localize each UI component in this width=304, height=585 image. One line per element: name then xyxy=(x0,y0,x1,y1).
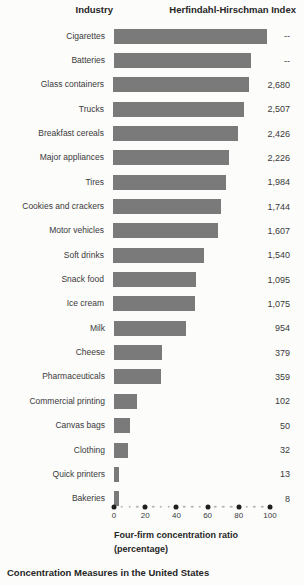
bar-track xyxy=(113,296,267,311)
hhi-value: 102 xyxy=(270,396,304,406)
hhi-value: 2,226 xyxy=(267,153,304,163)
industry-label: Glass containers xyxy=(0,80,113,89)
cr4-bar xyxy=(114,418,130,433)
cr4-bar xyxy=(113,272,196,287)
cr4-bar xyxy=(114,467,119,482)
hhi-value: 1,540 xyxy=(267,250,304,260)
bar-track xyxy=(114,467,270,482)
industry-label: Motor vehicles xyxy=(0,226,113,235)
hhi-value: 8 xyxy=(270,494,304,504)
bar-row: Cheese379 xyxy=(0,340,304,364)
axis-minor-dot xyxy=(230,505,233,508)
industry-label: Cheese xyxy=(0,348,114,357)
cr4-bar xyxy=(113,248,204,263)
cr4-bar xyxy=(113,223,218,238)
cr4-bar xyxy=(113,150,229,165)
x-axis-tick-label: 0 xyxy=(112,511,116,520)
x-axis-tick-label: 80 xyxy=(234,511,243,520)
cr4-bar xyxy=(114,369,161,384)
hhi-column-header: Herfindahl-Hirschman Index xyxy=(114,4,304,15)
bar-track xyxy=(113,248,267,263)
hhi-value: 13 xyxy=(270,469,304,479)
bar-row: Quick printers13 xyxy=(0,462,304,486)
axis-minor-dot xyxy=(167,505,170,508)
industry-label: Cigarettes xyxy=(0,32,114,41)
industry-label: Canvas bags xyxy=(0,421,114,430)
cr4-bar xyxy=(114,443,128,458)
hhi-value: 1,075 xyxy=(267,299,304,309)
industry-label: Bakeries xyxy=(0,494,114,503)
bar-row: Glass containers2,680 xyxy=(0,73,304,97)
x-axis-title-line2: (percentage) xyxy=(114,543,238,557)
bar-row: Canvas bags50 xyxy=(0,414,304,438)
industry-label: Trucks xyxy=(0,105,113,114)
cr4-bar xyxy=(114,321,186,336)
bar-track xyxy=(113,175,267,190)
figure-caption: Concentration Measures in the United Sta… xyxy=(7,567,209,578)
axis-major-dot xyxy=(268,504,273,509)
bar-track xyxy=(114,53,270,68)
bar-row: Cigarettes-- xyxy=(0,24,304,48)
bar-track xyxy=(113,272,267,287)
hhi-value: -- xyxy=(270,31,304,41)
x-axis-tick-label: 60 xyxy=(203,511,212,520)
bar-row: Major appliances2,226 xyxy=(0,146,304,170)
bar-track xyxy=(114,369,270,384)
concentration-measures-figure: Industry Herfindahl-Hirschman Index Ciga… xyxy=(0,0,304,585)
bar-track xyxy=(113,223,267,238)
hhi-value: 2,680 xyxy=(267,80,304,90)
bar-row: Commercial printing102 xyxy=(0,389,304,413)
axis-major-dot xyxy=(112,504,117,509)
bar-chart-rows: Cigarettes--Batteries--Glass containers2… xyxy=(0,24,304,511)
bar-row: Cookies and crackers1,744 xyxy=(0,194,304,218)
cr4-bar xyxy=(113,126,238,141)
cr4-bar xyxy=(114,53,251,68)
hhi-value: 1,744 xyxy=(267,202,304,212)
bar-track xyxy=(114,345,270,360)
bar-row: Breakfast cereals2,426 xyxy=(0,121,304,145)
bar-track xyxy=(114,321,270,336)
industry-label: Cookies and crackers xyxy=(0,202,113,211)
axis-minor-dot xyxy=(191,505,194,508)
cr4-bar xyxy=(113,102,244,117)
industry-label: Pharmaceuticals xyxy=(0,372,114,381)
industry-label: Major appliances xyxy=(0,153,113,162)
bar-row: Tires1,984 xyxy=(0,170,304,194)
industry-label: Milk xyxy=(0,324,114,333)
bar-row: Batteries-- xyxy=(0,48,304,72)
x-axis-title-line1: Four-firm concentration ratio xyxy=(114,529,238,543)
axis-minor-dot xyxy=(160,505,163,508)
industry-label: Tires xyxy=(0,178,113,187)
cr4-bar xyxy=(113,77,249,92)
axis-minor-dot xyxy=(121,505,124,508)
axis-minor-dot xyxy=(222,505,225,508)
axis-minor-dot xyxy=(261,505,264,508)
bar-track xyxy=(113,199,267,214)
industry-column-header: Industry xyxy=(0,4,114,15)
axis-minor-dot xyxy=(199,505,202,508)
axis-major-dot xyxy=(143,504,148,509)
bar-row: Clothing32 xyxy=(0,438,304,462)
cr4-bar xyxy=(114,29,267,44)
bar-track xyxy=(113,150,267,165)
hhi-value: 2,507 xyxy=(267,104,304,114)
hhi-value: 1,095 xyxy=(267,275,304,285)
axis-major-dot xyxy=(236,504,241,509)
bar-track xyxy=(113,77,267,92)
bar-row: Snack food1,095 xyxy=(0,267,304,291)
axis-minor-dot xyxy=(245,505,248,508)
bar-track xyxy=(113,126,267,141)
industry-label: Clothing xyxy=(0,446,114,455)
x-axis-tick-label: 40 xyxy=(172,511,181,520)
bar-track xyxy=(113,102,267,117)
hhi-value: 50 xyxy=(270,421,304,431)
bar-track xyxy=(114,443,270,458)
x-axis-tick-labels: 020406080100 xyxy=(114,511,270,521)
x-axis-dotted-line xyxy=(114,503,270,510)
cr4-bar xyxy=(113,296,195,311)
column-headers: Industry Herfindahl-Hirschman Index xyxy=(0,4,304,15)
bar-track xyxy=(114,418,270,433)
bar-row: Motor vehicles1,607 xyxy=(0,219,304,243)
hhi-value: 1,607 xyxy=(267,226,304,236)
industry-label: Snack food xyxy=(0,275,113,284)
